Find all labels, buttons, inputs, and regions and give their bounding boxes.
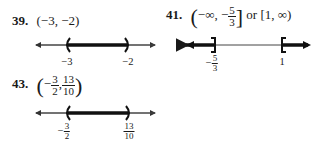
tick-label-neg-three-halves: −32 (58, 122, 70, 141)
tick-label-thirteen-tenths: 1310 (124, 122, 135, 141)
tick-label: −3 (61, 56, 72, 67)
arrow-left-icon (186, 41, 194, 49)
number-line-39 (36, 38, 155, 52)
tick-label: 1 (279, 56, 284, 67)
number-lines (0, 0, 319, 148)
arrow-right-icon (303, 41, 311, 49)
tick-label: −2 (122, 56, 133, 67)
number-line-43 (36, 106, 155, 120)
tick-label-neg-five-thirds: −53 (206, 54, 218, 73)
number-line-41 (186, 38, 311, 52)
